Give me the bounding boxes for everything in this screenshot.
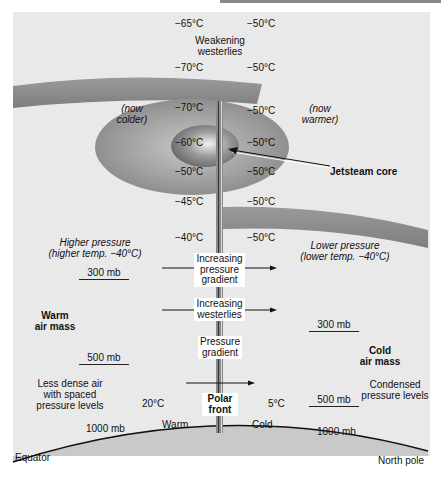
- surface-cold-label: Cold: [252, 419, 273, 430]
- pressure-500-right: 500 mb: [309, 394, 359, 407]
- surface-temp-left: 20°C: [142, 398, 164, 409]
- warm-air-mass-2: air mass: [30, 321, 80, 332]
- temp-right-3: −50°C: [247, 105, 275, 116]
- cold-air-mass-2: air mass: [355, 356, 405, 367]
- higher-pressure-2: (higher temp. −40°C): [40, 248, 150, 259]
- now-colder-1: (now: [112, 103, 152, 114]
- lower-pressure-1: Lower pressure: [300, 240, 390, 251]
- cold-air-mass-1: Cold: [355, 345, 405, 356]
- surface-warm-label: Warm: [162, 419, 188, 430]
- condensed-2: pressure levels: [360, 390, 430, 401]
- temp-right-6: −50°C: [247, 196, 275, 207]
- increasing-gradient-label: Increasing pressure gradient: [194, 253, 245, 287]
- less-dense-3: pressure levels: [30, 400, 110, 411]
- temp-left-1: −65°C: [175, 18, 203, 29]
- pressure-300-left: 300 mb: [79, 267, 129, 280]
- pressure-gradient-label: Pressure gradient: [198, 336, 242, 359]
- higher-pressure-1: Higher pressure: [45, 237, 145, 248]
- lower-pressure-2: (lower temp. −40°C): [290, 251, 400, 262]
- increasing-westerlies-label: Increasing westerlies: [194, 298, 245, 321]
- warm-air-mass-1: Warm: [30, 310, 80, 321]
- temp-right-5: −50°C: [247, 166, 275, 177]
- pressure-1000-left: 1000 mb: [86, 423, 125, 434]
- weakening-label-1: Weakening: [190, 35, 250, 46]
- temp-left-6: −45°C: [175, 196, 203, 207]
- now-warmer-1: (now: [298, 103, 342, 114]
- temp-right-7: −50°C: [247, 232, 275, 243]
- condensed-1: Condensed: [360, 379, 430, 390]
- temp-left-4: −60°C: [175, 137, 203, 148]
- equator-label: Equator: [15, 452, 50, 463]
- surface-temp-right: 5°C: [268, 398, 285, 409]
- temp-right-2: −50°C: [247, 62, 275, 73]
- jet-core-label: Jetsteam core: [330, 166, 397, 177]
- temp-left-2: −70°C: [175, 62, 203, 73]
- temp-left-5: −50°C: [175, 166, 203, 177]
- less-dense-2: with spaced: [30, 389, 110, 400]
- now-warmer-2: warmer): [298, 114, 342, 125]
- north-pole-label: North pole: [378, 455, 424, 466]
- pressure-1000-right: 1000 mb: [317, 426, 356, 437]
- polar-front-label: Polar front: [202, 393, 238, 416]
- temp-left-3: −70°C: [175, 102, 203, 113]
- pressure-300-right: 300 mb: [309, 319, 359, 332]
- temp-right-4: −50°C: [247, 137, 275, 148]
- temp-left-7: −40°C: [175, 232, 203, 243]
- temp-right-1: −50°C: [247, 18, 275, 29]
- now-colder-2: colder): [112, 114, 152, 125]
- pressure-500-left: 500 mb: [79, 352, 129, 365]
- weakening-label-2: westerlies: [190, 46, 250, 57]
- less-dense-1: Less dense air: [30, 378, 110, 389]
